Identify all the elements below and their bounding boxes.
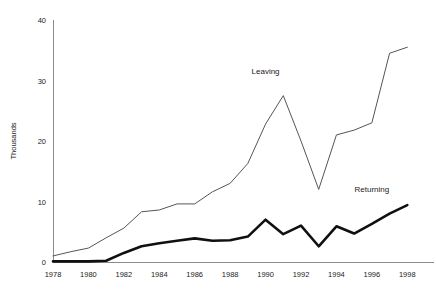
y-tick-label: 40 xyxy=(38,16,46,25)
line-chart: 010203040 Thousands 19781980198219841986… xyxy=(0,0,436,296)
x-tick-label: 1994 xyxy=(328,270,345,279)
x-axis-tick-labels: 1978198019821984198619881990199219941996… xyxy=(45,270,416,279)
x-tick-label: 1996 xyxy=(364,270,381,279)
y-tick-label: 0 xyxy=(42,258,46,267)
x-tick-label: 1990 xyxy=(257,270,274,279)
x-tick-label: 1992 xyxy=(293,270,310,279)
y-axis-title: Thousands xyxy=(9,122,18,159)
series-annotations: LeavingReturning xyxy=(252,67,390,194)
series-label-returning: Returning xyxy=(355,185,390,194)
series-line-leaving xyxy=(53,47,407,256)
y-axis: 010203040 Thousands xyxy=(9,16,53,267)
series-label-leaving: Leaving xyxy=(252,67,280,76)
y-tick-label: 20 xyxy=(38,137,46,146)
series-lines xyxy=(53,47,407,261)
y-tick-label: 10 xyxy=(38,198,46,207)
x-tick-label: 1980 xyxy=(80,270,97,279)
x-tick-label: 1978 xyxy=(45,270,62,279)
x-tick-label: 1988 xyxy=(222,270,239,279)
chart-canvas: 010203040 Thousands 19781980198219841986… xyxy=(0,0,436,296)
y-axis-tick-labels: 010203040 xyxy=(38,16,46,267)
x-tick-label: 1982 xyxy=(116,270,133,279)
x-tick-label: 1984 xyxy=(151,270,168,279)
series-line-returning xyxy=(53,205,407,261)
y-tick-label: 30 xyxy=(38,77,46,86)
x-tick-label: 1998 xyxy=(399,270,416,279)
x-tick-label: 1986 xyxy=(186,270,203,279)
x-axis: 1978198019821984198619881990199219941996… xyxy=(45,262,434,279)
